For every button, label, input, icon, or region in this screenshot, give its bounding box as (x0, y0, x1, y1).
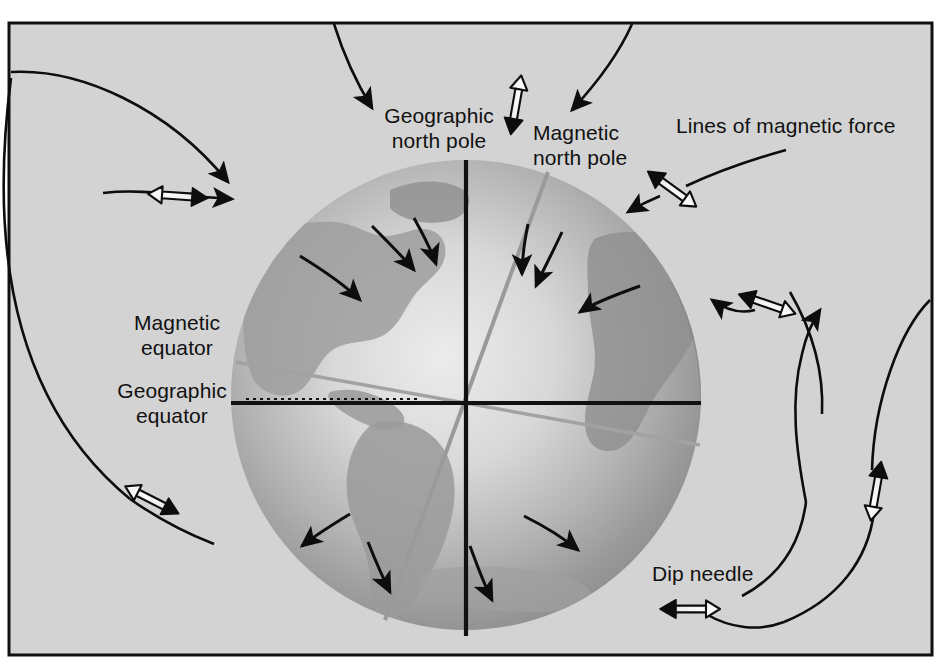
label-magnetic-equator: Magnetic equator (102, 310, 252, 360)
label-lines-of-magnetic-force: Lines of magnetic force (676, 113, 920, 138)
label-magnetic-north-pole: Magnetic north pole (533, 120, 693, 170)
label-dip-needle: Dip needle (652, 561, 812, 586)
magnetic-field-figure: Geographic north pole Magnetic north pol… (0, 0, 938, 669)
label-geographic-north-pole: Geographic north pole (355, 103, 523, 153)
label-geographic-equator: Geographic equator (92, 378, 252, 428)
